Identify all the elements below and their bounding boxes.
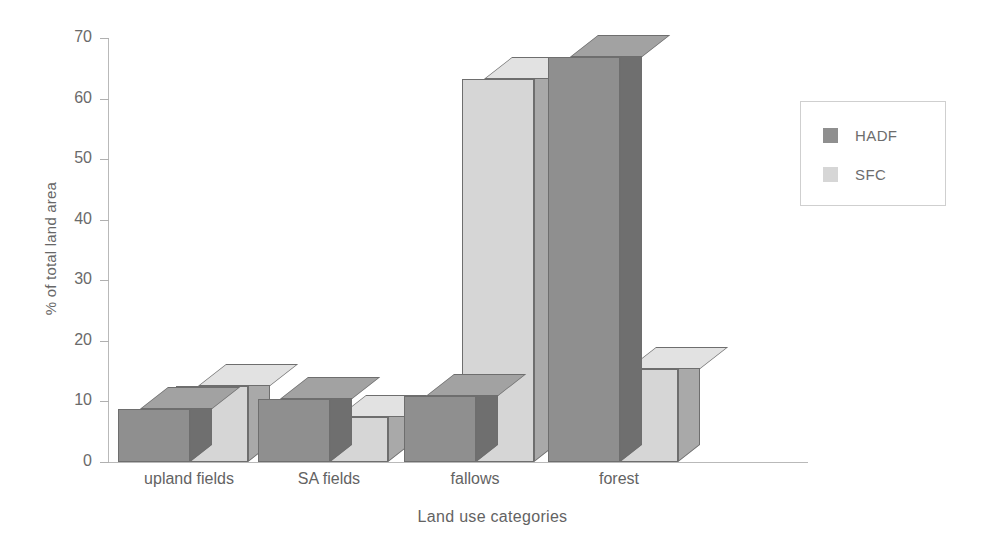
y-axis-tick-label: 30 [40,271,92,287]
bar-front-face [548,57,620,462]
legend: HADF SFC [800,101,946,206]
y-axis-tick-label: 40 [40,211,92,227]
y-axis-tick-label: 70 [40,29,92,45]
bar-top-face [628,347,728,369]
legend-item-sfc[interactable]: SFC [823,166,886,183]
y-axis-tick-label: 50 [40,150,92,166]
legend-swatch-sfc [823,167,838,182]
plot-area [108,30,808,463]
bar-top-face [570,35,670,57]
bar-front-face [404,396,476,462]
bar-chart: % of total land area 010203040506070 upl… [0,0,985,545]
legend-swatch-hadf [823,128,838,143]
y-axis-tick-label: 60 [40,90,92,106]
x-axis-title: Land use categories [0,508,985,526]
legend-item-hadf[interactable]: HADF [823,127,897,144]
bar-front-face [118,409,190,462]
bar-hadf-fallows [404,396,476,462]
y-axis-title: % of total land area [42,49,59,449]
bar-hadf-upland-fields [118,409,190,462]
bar-hadf-SA-fields [258,399,330,462]
y-axis-tick-label: 0 [40,453,92,469]
legend-label-sfc: SFC [855,166,886,183]
bar-hadf-forest [548,57,620,462]
bar-top-face [198,364,298,386]
x-axis-tick-label: forest [529,470,709,488]
y-axis-tick-label: 20 [40,332,92,348]
legend-label-hadf: HADF [855,127,897,144]
bar-front-face [258,399,330,462]
y-axis-tick-label: 10 [40,392,92,408]
bar-side-face [620,40,642,462]
